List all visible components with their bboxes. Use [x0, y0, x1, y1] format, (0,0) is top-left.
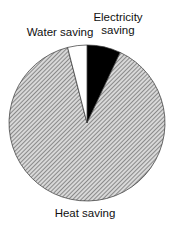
- label-heat-saving: Heat saving: [55, 207, 116, 220]
- label-line-2: saving: [93, 24, 142, 37]
- label-water-saving: Water saving: [27, 26, 94, 39]
- label-electricity-saving: Electricity saving: [93, 11, 142, 37]
- label-line-1: Electricity: [93, 11, 142, 24]
